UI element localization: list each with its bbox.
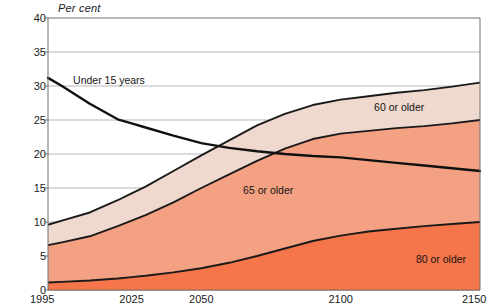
series-label-80-or-older: 80 or older — [416, 253, 466, 265]
series-label-under-15-years: Under 15 years — [73, 74, 145, 86]
x-tick-label-1995: 1995 — [30, 293, 54, 305]
x-tick-label-2100: 2100 — [328, 293, 352, 305]
x-tick-label-2150: 2150 — [462, 293, 486, 305]
series-label-60-or-older: 60 or older — [374, 101, 424, 113]
x-tick-label-2025: 2025 — [119, 293, 143, 305]
series-label-65-or-older: 65 or older — [243, 184, 293, 196]
population-ageing-area-chart: Per cent 0510152025303540 19952025205021… — [0, 0, 492, 308]
x-tick-label-2050: 2050 — [189, 293, 213, 305]
